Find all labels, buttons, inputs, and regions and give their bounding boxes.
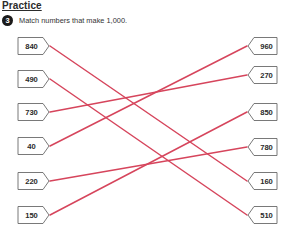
right-number-column: 960270850780160510 [248,38,277,224]
left-number-box[interactable]: 840 [18,38,49,55]
left-number-column: 84049073040220150 [18,38,49,224]
left-number-box[interactable]: 40 [18,138,49,155]
match-line-490-510[interactable] [50,79,247,215]
right-number-box[interactable]: 960 [248,38,277,55]
number-label: 490 [25,75,38,84]
number-label: 40 [27,142,35,151]
number-label: 150 [25,211,38,220]
number-label: 960 [260,42,273,51]
left-number-box[interactable]: 730 [18,104,49,121]
left-number-box[interactable]: 220 [18,173,49,190]
right-number-box[interactable]: 270 [248,67,277,84]
number-label: 220 [25,177,38,186]
match-line-840-160[interactable] [50,46,247,181]
match-line-150-850[interactable] [50,112,247,215]
number-label: 160 [260,177,273,186]
match-line-40-960[interactable] [50,46,247,146]
right-number-box[interactable]: 780 [248,139,277,156]
number-label: 840 [25,42,38,51]
number-label: 510 [260,211,273,220]
right-number-box[interactable]: 850 [248,104,277,121]
number-label: 780 [260,143,273,152]
matching-canvas: 84049073040220150 960270850780160510 [0,0,285,239]
right-number-box[interactable]: 160 [248,173,277,190]
number-label: 270 [260,71,273,80]
right-number-box[interactable]: 510 [248,207,277,224]
number-label: 850 [260,108,273,117]
match-lines [50,46,247,215]
match-line-730-270[interactable] [50,75,247,112]
left-number-box[interactable]: 150 [18,207,49,224]
number-label: 730 [25,108,38,117]
left-number-box[interactable]: 490 [18,71,49,88]
